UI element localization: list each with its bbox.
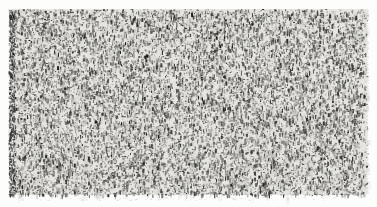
random-dot-noise-texture-image	[0, 0, 377, 207]
scanned-figure-page	[0, 0, 377, 207]
